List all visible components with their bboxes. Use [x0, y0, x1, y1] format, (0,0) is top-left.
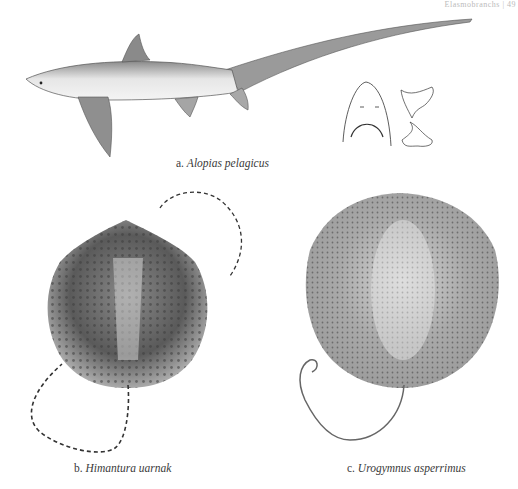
shark-eye	[40, 82, 43, 85]
caption-b-letter: b.	[74, 462, 83, 474]
caption-a-letter: a.	[176, 157, 184, 169]
shark-pelvic-fin	[175, 97, 198, 117]
caption-c-name: Urogymnus asperrimus	[358, 462, 466, 474]
caption-c-letter: c.	[347, 462, 355, 474]
himantura-figure	[31, 192, 241, 452]
caption-c: c. Urogymnus asperrimus	[347, 462, 466, 474]
shark-body	[26, 62, 238, 100]
shark-head-detail	[343, 82, 391, 146]
himantura-midline	[113, 258, 143, 360]
urogymnus-figure	[300, 193, 499, 440]
urogymnus-center	[371, 220, 435, 360]
shark-pectoral-fin	[78, 97, 112, 157]
caption-b-name: Himantura uarnak	[86, 462, 172, 474]
caption-a: a. Alopias pelagicus	[176, 157, 269, 169]
caption-a-name: Alopias pelagicus	[187, 157, 269, 169]
shark-dorsal-fin	[122, 34, 150, 62]
shark-tail	[225, 19, 472, 92]
caption-b: b. Himantura uarnak	[74, 462, 171, 474]
illustration-plate	[0, 0, 518, 489]
shark-figure	[26, 19, 472, 157]
shark-teeth-detail	[401, 87, 433, 146]
